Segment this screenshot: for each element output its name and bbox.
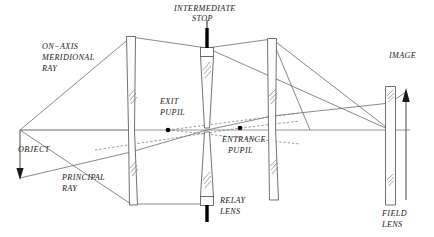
meridional-ray-upper-segment-2 — [131, 37, 207, 48]
on-axis-meridional-ray-line-1: ON−AXIS — [42, 42, 78, 51]
label-principal-ray: PRINCIPAL RAY — [61, 173, 105, 193]
field-lens-line-2: LENS — [381, 220, 403, 229]
entrance-pupil-line-1: ENTRANCE — [221, 135, 266, 144]
lens-3[interactable] — [268, 39, 279, 201]
entrance-pupil-dot — [238, 126, 243, 131]
label-image: IMAGE — [388, 51, 416, 60]
object-arrow-head — [16, 168, 23, 180]
exit-pupil-line-1: EXIT — [159, 97, 180, 106]
exit-pupil-dashed-upper — [168, 113, 300, 130]
intermediate-stop-upper-bar — [205, 28, 208, 48]
relay-lens-line-1: RELAY — [219, 196, 247, 205]
on-axis-meridional-ray-line-2: MERIDIONAL — [41, 53, 95, 62]
lens-1-body — [127, 37, 138, 206]
relay-lens-upper-aperture — [201, 48, 214, 57]
field-lens[interactable] — [386, 87, 396, 206]
field-lens-line-1: FIELD — [381, 209, 407, 218]
entrance-pupil-line-2: PUPIL — [227, 146, 253, 155]
exit-pupil-dot — [166, 128, 171, 133]
crossing-ray-segment-2 — [272, 39, 310, 130]
field-lens-body — [386, 87, 396, 206]
optical-ray-diagram: ON−AXIS MERIDIONAL RAY INTERMEDIATE STOP… — [0, 0, 434, 237]
object-arrow — [16, 130, 23, 180]
label-object: OBJECT — [18, 145, 51, 154]
label-field-lens: FIELD LENS — [381, 209, 407, 229]
relay-lens-lower-element — [201, 132, 214, 197]
image-arrow-head — [402, 88, 410, 102]
intermediate-stop-line-2: STOP — [192, 14, 213, 23]
meridional-ray-upper-segment-3 — [207, 39, 272, 48]
image-arrow — [402, 88, 410, 200]
label-intermediate-stop: INTERMEDIATE STOP — [173, 4, 236, 23]
crossing-ray-segment-1 — [207, 48, 390, 130]
diagram-canvas: ON−AXIS MERIDIONAL RAY INTERMEDIATE STOP… — [0, 0, 434, 237]
intermediate-stop-line-1: INTERMEDIATE — [173, 4, 236, 13]
relay-lens-line-2: LENS — [219, 207, 241, 216]
principal-ray-line-2: RAY — [61, 184, 78, 193]
on-axis-meridional-ray-line-3: RAY — [41, 64, 58, 73]
lens-1[interactable] — [127, 37, 139, 206]
label-entrance-pupil: ENTRANCE PUPIL — [221, 135, 266, 155]
crossing-ray-bundle — [207, 39, 390, 130]
label-on-axis-meridional-ray: ON−AXIS MERIDIONAL RAY — [41, 42, 95, 73]
relay-lens[interactable] — [201, 48, 214, 206]
label-exit-pupil: EXIT PUPIL — [159, 97, 185, 117]
intermediate-stop-lower-bar — [205, 205, 208, 222]
lens-3-body — [268, 39, 279, 201]
meridional-ray-upper-segment-4 — [272, 39, 390, 130]
relay-lens-lower-aperture — [201, 197, 214, 206]
relay-lens-upper-element — [201, 57, 214, 129]
principal-ray-line-1: PRINCIPAL — [61, 173, 105, 182]
exit-pupil-line-2: PUPIL — [159, 108, 185, 117]
label-relay-lens: RELAY LENS — [219, 196, 247, 216]
